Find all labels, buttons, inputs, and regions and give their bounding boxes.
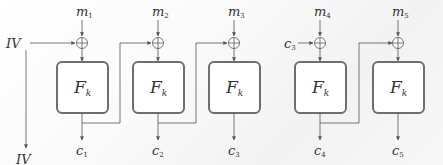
xor-icon (393, 38, 404, 49)
xor-icon (229, 38, 240, 49)
diagram-canvas: IV IV m1 Fk c1 m2 Fk c2 m3 Fk c3 (0, 0, 443, 165)
xor-icon (153, 38, 164, 49)
output-label: c1 (76, 143, 88, 159)
iv-label: IV (5, 36, 22, 51)
input-label: m4 (314, 4, 331, 20)
cbc-diagram: IV IV m1 Fk c1 m2 Fk c2 m3 Fk c3 (0, 0, 443, 165)
input-label: m5 (392, 4, 409, 20)
output-label: c4 (314, 143, 326, 159)
input-label: m3 (228, 4, 245, 20)
stage-3: m3 Fk c3 (209, 4, 260, 159)
output-label: c5 (392, 143, 404, 159)
input-label: m1 (76, 4, 93, 20)
input-label: m2 (152, 4, 169, 20)
xor-icon (77, 38, 88, 49)
iv-output-label: IV (15, 152, 32, 165)
output-label: c3 (228, 143, 240, 159)
xor-icon (315, 38, 326, 49)
chain-input-label: c3 (284, 36, 296, 52)
stage-5: m5 Fk c5 (373, 4, 424, 159)
output-label: c2 (152, 143, 164, 159)
